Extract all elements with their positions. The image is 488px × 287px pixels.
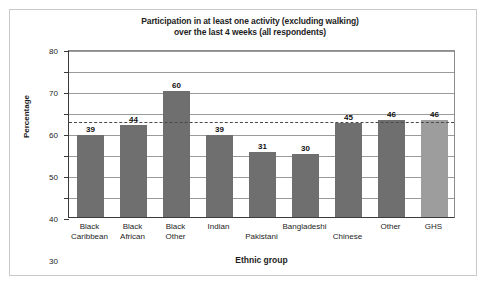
bar-value-label: 46 xyxy=(387,110,396,119)
gridline xyxy=(69,72,454,73)
bar[interactable]: 39 xyxy=(206,135,232,217)
y-axis-tick: 0 xyxy=(64,219,69,220)
y-axis-tick-label: 40 xyxy=(49,215,58,224)
x-axis-tick-label: Bangladeshi xyxy=(282,222,326,232)
bar-value-label: 45 xyxy=(344,113,353,122)
bar[interactable]: 39 xyxy=(77,135,103,217)
y-axis-tick-label: 50 xyxy=(49,173,58,182)
gridline xyxy=(69,51,454,52)
bar-value-label: 30 xyxy=(301,144,310,153)
y-axis-tick: 70 xyxy=(64,72,69,73)
chart-title-line-1: Participation in at least one activity (… xyxy=(141,16,359,26)
chart-title: Participation in at least one activity (… xyxy=(40,16,460,38)
y-axis-tick: 30 xyxy=(64,156,69,157)
bar[interactable]: 60 xyxy=(163,91,189,217)
bar[interactable]: 46 xyxy=(421,120,447,217)
y-axis-tick: 80 xyxy=(64,51,69,52)
gridline xyxy=(69,93,454,94)
y-axis-tick-label: 60 xyxy=(49,131,58,140)
x-axis-tick-label: Other xyxy=(380,222,400,232)
x-axis-tick-label: Black xyxy=(123,222,143,232)
bar-value-label: 46 xyxy=(430,110,439,119)
x-axis-tick-label: Pakistani xyxy=(245,232,277,242)
benchmark-reference-line xyxy=(69,122,454,123)
bar[interactable]: 30 xyxy=(292,154,318,217)
bar-value-label: 60 xyxy=(172,81,181,90)
bar-value-label: 31 xyxy=(258,142,267,151)
chart-title-line-2: over the last 4 weeks (all respondents) xyxy=(40,27,460,38)
plot-area: 01020304050607080394460393130454646 xyxy=(68,50,455,218)
y-axis-tick-label: 30 xyxy=(49,257,58,266)
y-axis-tick-label: 80 xyxy=(49,47,58,56)
x-axis-tick-label: Other xyxy=(165,232,185,242)
chart-figure: Participation in at least one activity (… xyxy=(0,0,488,287)
y-axis-tick-label: 70 xyxy=(49,89,58,98)
x-axis-tick-label: Black xyxy=(80,222,100,232)
x-axis-tick-label: Black xyxy=(166,222,186,232)
y-axis-title: Percentage xyxy=(22,77,31,157)
y-axis-tick: 20 xyxy=(64,177,69,178)
x-axis-tick-label: African xyxy=(120,232,145,242)
y-axis-tick: 60 xyxy=(64,93,69,94)
bar-value-label: 39 xyxy=(86,125,95,134)
bar-value-label: 39 xyxy=(215,125,224,134)
x-axis-tick-label: Indian xyxy=(208,222,230,232)
gridline xyxy=(69,114,454,115)
bar[interactable]: 45 xyxy=(335,123,361,218)
x-axis-tick-label: GHS xyxy=(425,222,442,232)
y-axis-tick: 40 xyxy=(64,135,69,136)
x-axis-title: Ethnic group xyxy=(68,255,455,265)
x-axis-tick-label: Caribbean xyxy=(71,232,108,242)
y-axis-tick: 50 xyxy=(64,114,69,115)
bar[interactable]: 44 xyxy=(120,125,146,217)
bar[interactable]: 31 xyxy=(249,152,275,217)
bar[interactable]: 46 xyxy=(378,120,404,217)
y-axis-tick: 10 xyxy=(64,198,69,199)
x-axis-tick-label: Chinese xyxy=(333,232,362,242)
